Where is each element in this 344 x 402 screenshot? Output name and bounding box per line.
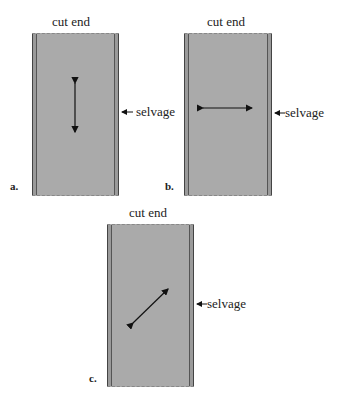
- grain-arrow-diagonal-icon: [0, 0, 344, 402]
- selvage-label-c: selvage: [207, 296, 246, 312]
- panel-letter-c: c.: [89, 372, 97, 384]
